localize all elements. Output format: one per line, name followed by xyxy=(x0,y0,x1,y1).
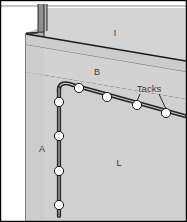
figure-container: I B A L Tacks xyxy=(0,0,187,222)
tacks-callout-label: Tacks xyxy=(137,83,162,94)
region-label-b: B xyxy=(94,67,100,77)
wall-geometry xyxy=(0,0,186,222)
tack-icon xyxy=(132,100,141,109)
region-label-a: A xyxy=(39,144,45,154)
tack-icon xyxy=(54,166,63,175)
tack-icon xyxy=(161,108,170,117)
tack-icon xyxy=(74,83,83,92)
tack-icon xyxy=(102,92,111,101)
wall-cutaway-lower-left xyxy=(0,33,26,222)
tack-icon xyxy=(54,131,63,140)
corner-trim-dark xyxy=(38,4,44,33)
tack-icon xyxy=(54,97,63,106)
wall-cable-diagram: I B A L Tacks xyxy=(0,0,187,222)
region-label-l: L xyxy=(116,158,121,168)
wall-return-shading xyxy=(26,45,44,222)
tack-icon xyxy=(54,200,63,209)
region-label-i: I xyxy=(114,28,117,38)
